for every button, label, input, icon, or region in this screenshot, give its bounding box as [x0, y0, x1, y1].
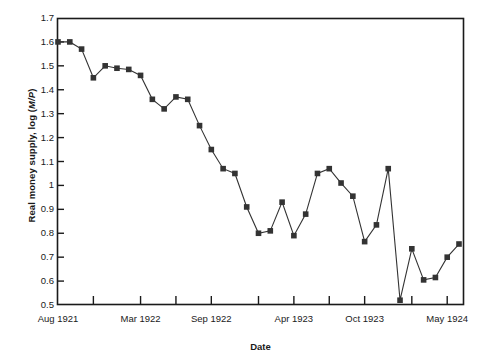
- y-tick-label: 1.4: [24, 85, 54, 95]
- y-tick-label: 1.2: [24, 133, 54, 143]
- data-point-marker: [244, 204, 250, 210]
- data-point-marker: [456, 241, 462, 247]
- y-tick-label-group: 0.50.60.70.80.911.11.21.31.41.51.61.7: [18, 0, 54, 363]
- y-tick-label: 1.5: [24, 61, 54, 71]
- data-point-marker: [385, 166, 391, 172]
- data-point-marker: [232, 171, 238, 177]
- y-tick-label: 1.1: [24, 157, 54, 167]
- data-point-marker: [444, 254, 450, 260]
- data-point-marker: [350, 193, 356, 199]
- data-point-marker: [362, 239, 368, 245]
- data-point-marker: [114, 65, 120, 71]
- data-point-marker: [267, 228, 273, 234]
- data-point-marker: [209, 147, 215, 153]
- data-point-marker: [55, 39, 61, 45]
- data-point-marker: [220, 166, 226, 172]
- data-point-marker: [421, 277, 427, 283]
- data-point-marker: [126, 67, 132, 73]
- data-point-marker: [409, 246, 415, 252]
- data-series-line: [58, 42, 459, 300]
- data-point-marker: [303, 211, 309, 217]
- data-point-marker: [138, 73, 144, 79]
- y-tick-label: 1.7: [24, 13, 54, 23]
- y-axis-ticks: [58, 42, 64, 281]
- data-point-marker: [291, 233, 297, 239]
- chart-figure: Real money supply, log (M/P) 0.50.60.70.…: [0, 0, 478, 363]
- plot-canvas: [0, 0, 478, 363]
- x-axis-title: Date: [57, 341, 464, 352]
- y-tick-label: 0.9: [24, 204, 54, 214]
- data-point-marker: [173, 94, 179, 100]
- data-point-marker: [433, 275, 439, 281]
- data-point-marker: [197, 123, 203, 129]
- data-point-marker: [338, 180, 344, 186]
- data-point-marker: [315, 171, 321, 177]
- y-tick-label: 0.8: [24, 228, 54, 238]
- x-tick-label: Aug 1921: [13, 313, 103, 324]
- x-tick-label: Sep 1922: [166, 313, 256, 324]
- data-point-marker: [102, 63, 108, 69]
- y-tick-label: 0.7: [24, 252, 54, 262]
- y-tick-label: 0.6: [24, 276, 54, 286]
- data-point-marker: [256, 230, 262, 236]
- y-tick-label: 1.3: [24, 109, 54, 119]
- data-point-marker: [150, 97, 156, 103]
- data-point-marker: [397, 297, 403, 303]
- data-point-marker: [374, 222, 380, 228]
- data-point-marker: [91, 75, 97, 81]
- y-tick-label: 0.5: [24, 300, 54, 310]
- x-tick-label: Oct 1923: [320, 313, 410, 324]
- data-series-markers: [55, 39, 462, 303]
- x-tick-label: May 1924: [402, 313, 478, 324]
- x-axis-ticks: [93, 296, 447, 304]
- y-tick-label: 1: [24, 180, 54, 190]
- data-point-marker: [161, 106, 167, 112]
- data-point-marker: [79, 46, 85, 52]
- data-point-marker: [185, 97, 191, 103]
- plot-frame: [58, 19, 464, 305]
- data-point-marker: [279, 199, 285, 205]
- data-point-marker: [67, 39, 73, 45]
- plot-border: [58, 19, 464, 305]
- y-tick-label: 1.6: [24, 37, 54, 47]
- data-point-marker: [326, 166, 332, 172]
